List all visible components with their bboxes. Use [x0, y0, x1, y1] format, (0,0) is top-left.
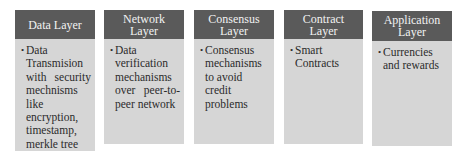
data-layer-body: • Data Transmision with security mechnis…: [15, 39, 95, 151]
data-layer-header: Data Layer: [15, 10, 95, 39]
network-layer-header: Network Layer: [104, 10, 184, 39]
contract-layer-title-line1: Contract: [303, 13, 344, 25]
contract-layer-header: Contract Layer: [284, 10, 363, 39]
application-layer-description: Currencies and rewards: [383, 46, 448, 73]
application-layer-box: Application Layer • Currencies and rewar…: [372, 11, 452, 146]
network-layer-description: Data verification mechanisms over peer-t…: [115, 44, 180, 111]
contract-layer-description: Smart Contracts: [295, 44, 345, 71]
consensus-layer-body: • Consensus mechanisms to avoid credit p…: [194, 39, 274, 144]
consensus-layer-box: Consensus Layer • Consensus mechanisms t…: [194, 10, 274, 144]
application-layer-header: Application Layer: [372, 11, 452, 41]
list-item: • Consensus mechanisms to avoid credit p…: [200, 44, 270, 111]
list-item: • Data Transmision with security mechnis…: [21, 44, 91, 151]
consensus-layer-description: Consensus mechanisms to avoid credit pro…: [205, 44, 270, 111]
network-layer-title-line1: Network: [123, 13, 165, 25]
list-item: • Currencies and rewards: [378, 46, 448, 73]
contract-layer-box: Contract Layer • Smart Contracts: [284, 10, 363, 144]
network-layer-box: Network Layer • Data verification mechan…: [104, 10, 184, 144]
list-item: • Smart Contracts: [290, 44, 359, 71]
contract-layer-title-line2: Layer: [303, 25, 344, 37]
data-layer-box: Data Layer • Data Transmision with secur…: [15, 10, 95, 144]
network-layer-title-line2: Layer: [123, 25, 165, 37]
data-layer-description: Data Transmision with security mechnisms…: [26, 44, 91, 151]
network-layer-body: • Data verification mechanisms over peer…: [104, 39, 184, 144]
application-layer-body: • Currencies and rewards: [372, 41, 452, 146]
contract-layer-body: • Smart Contracts: [284, 39, 363, 144]
consensus-layer-title-line1: Consensus: [208, 13, 259, 25]
data-layer-title: Data Layer: [28, 19, 82, 31]
consensus-layer-header: Consensus Layer: [194, 10, 274, 39]
consensus-layer-title-line2: Layer: [208, 25, 259, 37]
list-item: • Data verification mechanisms over peer…: [110, 44, 180, 111]
application-layer-title-line2: Layer: [384, 26, 441, 38]
